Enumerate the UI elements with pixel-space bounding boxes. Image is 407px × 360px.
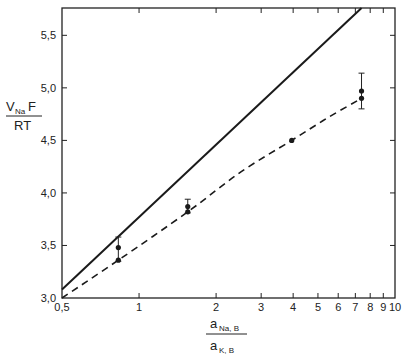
x-axis-label: a Na, B a K, B [206, 316, 247, 355]
series-layer [62, 8, 365, 298]
y-tick-label: 4,0 [41, 187, 56, 199]
plot-frame [62, 8, 395, 298]
x-tick-label: 8 [367, 301, 373, 313]
y-axis-label: V Na F RT [6, 99, 42, 133]
y-tick-label: 3,5 [41, 239, 56, 251]
data-point [185, 204, 190, 209]
chart: 0,5123456789103,03,54,04,55,05,5 V Na F … [0, 0, 407, 360]
y-tick-label: 3,0 [41, 292, 56, 304]
x-tick-label: 7 [352, 301, 358, 313]
x-label-denominator-main: a [210, 338, 218, 353]
x-label-numerator-sub: Na, B [219, 324, 239, 333]
data-point [116, 258, 121, 263]
dashed-fit-curve [62, 98, 362, 298]
y-label-denominator: RT [14, 118, 31, 133]
y-label-numerator-sub: Na [15, 107, 26, 116]
x-label-denominator-sub: K, B [219, 346, 234, 355]
data-point [116, 245, 121, 250]
y-tick-label: 5,0 [41, 82, 56, 94]
x-tick-label: 6 [335, 301, 341, 313]
x-tick-label: 9 [380, 301, 386, 313]
y-tick-label: 5,5 [41, 29, 56, 41]
x-tick-label: 3 [258, 301, 264, 313]
x-label-numerator-main: a [210, 316, 218, 331]
y-label-numerator-main: V [6, 99, 15, 114]
axes-frame [62, 8, 395, 298]
x-tick-label: 0,5 [54, 301, 69, 313]
ticks: 0,5123456789103,03,54,04,55,05,5 [41, 8, 401, 313]
data-point [359, 96, 364, 101]
x-tick-label: 10 [389, 301, 401, 313]
data-point [289, 138, 294, 143]
y-tick-label: 4,5 [41, 134, 56, 146]
y-label-numerator-tail: F [28, 99, 36, 114]
x-tick-label: 5 [315, 301, 321, 313]
data-point [359, 88, 364, 93]
theoretical-line [62, 8, 362, 290]
x-tick-label: 1 [136, 301, 142, 313]
x-tick-label: 2 [213, 301, 219, 313]
x-tick-label: 4 [290, 301, 296, 313]
data-point [185, 209, 190, 214]
